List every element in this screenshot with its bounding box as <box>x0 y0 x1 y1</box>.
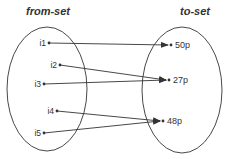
to-element-label: 48p <box>167 116 182 126</box>
from-element-dot <box>59 64 62 67</box>
mapping-diagram: from-set to-set i1i2i3i4i5 50p27p48p <box>0 0 227 159</box>
to-element-label: 27p <box>173 75 188 85</box>
to-element-dot <box>168 79 171 82</box>
from-element-label: i4 <box>47 106 54 116</box>
to-element-dot <box>162 120 165 123</box>
arrow-i1-to-50p <box>49 43 168 45</box>
arrow-i5-to-48p <box>44 121 160 133</box>
to-element-dot <box>170 44 173 47</box>
from-element-label: i2 <box>50 60 57 70</box>
to-set-elements: 50p27p48p <box>162 40 190 126</box>
from-element-dot <box>43 132 46 135</box>
to-element-label: 50p <box>175 40 190 50</box>
mapping-arrows <box>44 43 168 133</box>
from-element-dot <box>56 110 59 113</box>
arrow-i2-to-27p <box>60 65 166 80</box>
from-set-title: from-set <box>26 5 71 17</box>
from-set-elements: i1i2i3i4i5 <box>34 38 61 138</box>
from-element-dot <box>48 42 51 45</box>
from-element-label: i5 <box>34 128 41 138</box>
from-element-dot <box>43 83 46 86</box>
arrow-i3-to-27p <box>44 80 166 84</box>
from-element-label: i1 <box>39 38 46 48</box>
from-element-label: i3 <box>34 79 41 89</box>
to-set-title: to-set <box>180 5 211 17</box>
